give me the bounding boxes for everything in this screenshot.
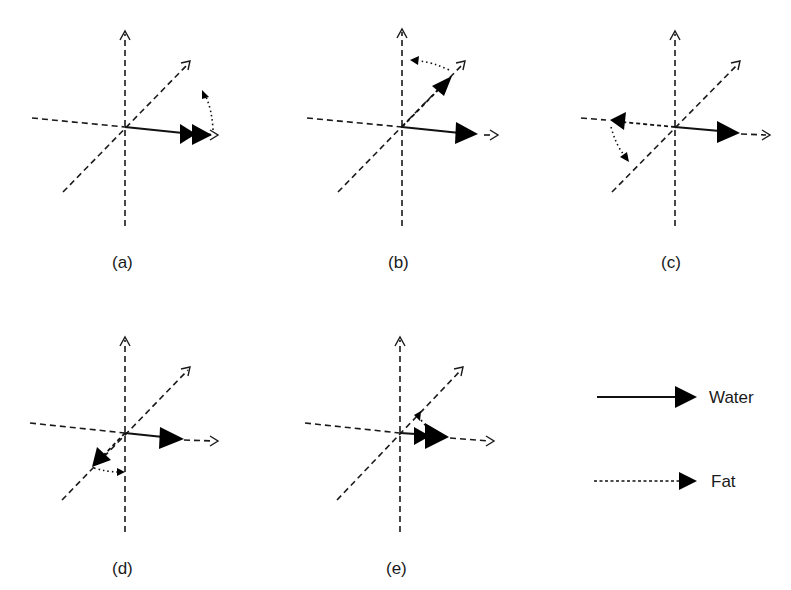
panel-label: (c) (661, 253, 681, 272)
axis-arrow-icon (454, 367, 463, 376)
fat-vector (92, 433, 125, 467)
panel-c: (c) (581, 31, 770, 272)
water-arrowhead-icon (159, 427, 184, 449)
dotted-arrowhead-icon (117, 468, 125, 476)
dotted-arrowhead-icon (620, 152, 629, 162)
panel-label: (d) (112, 559, 133, 578)
precession-arc (410, 56, 449, 70)
axes (305, 337, 494, 532)
fat-vector (610, 112, 675, 130)
panel-e: (e) (305, 337, 494, 578)
dotted-arrowhead-icon (202, 90, 209, 99)
legend-item-fat: Fat (594, 472, 736, 491)
axis-arrow-icon (181, 367, 190, 376)
water-arrowhead-icon (455, 122, 478, 144)
precession-arc (611, 127, 629, 162)
vector-diagram-figure: (a) (b) (0, 0, 791, 590)
fat-arrowhead-icon (679, 472, 697, 490)
precession-arc (94, 468, 125, 476)
panel-d: (d) (30, 337, 218, 578)
axes (581, 31, 770, 226)
panel-label: (b) (388, 253, 409, 272)
panel-label: (a) (112, 253, 133, 272)
legend: Water Fat (594, 386, 754, 491)
legend-item-water: Water (597, 386, 754, 408)
fat-arrowhead-icon (414, 411, 421, 421)
dotted-arrowhead-icon (410, 56, 419, 65)
legend-label: Water (709, 388, 754, 407)
water-vector (402, 122, 478, 144)
water-arrowhead-icon (717, 121, 740, 143)
fat-arrowhead-icon (432, 76, 452, 96)
water-vector (125, 427, 184, 449)
precession-arc (202, 90, 213, 130)
panel-label: (e) (386, 559, 407, 578)
axes (32, 31, 218, 226)
water-vector (125, 124, 212, 145)
water-vector (675, 121, 740, 143)
water-arrowhead-icon (675, 386, 697, 408)
legend-label: Fat (711, 472, 736, 491)
panel-a: (a) (32, 31, 218, 272)
fat-arrowhead-icon (192, 124, 212, 145)
fat-vector (402, 76, 452, 127)
axis-arrow-icon (490, 130, 498, 140)
panel-b: (b) (307, 29, 498, 272)
fat-arrowhead-icon (610, 112, 626, 130)
water-arrowhead-icon (425, 423, 449, 449)
